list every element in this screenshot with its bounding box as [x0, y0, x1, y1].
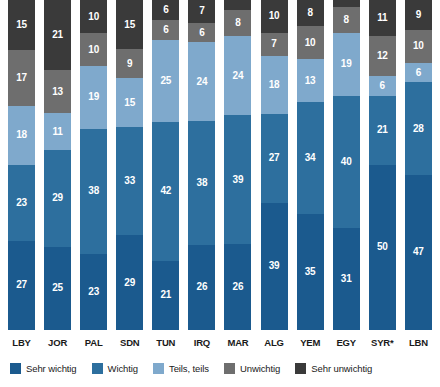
- bar-segment-value: 39: [269, 261, 280, 271]
- bar-segment: 40: [333, 96, 360, 228]
- bar-segment-value: 6: [163, 5, 168, 15]
- bar-segment: 18: [8, 106, 35, 165]
- bar-segment: 7: [261, 33, 288, 56]
- bar-segment-value: 6: [416, 68, 421, 78]
- bar-stack-yem: 810133435: [297, 0, 324, 330]
- bar-segment: 6: [188, 23, 215, 43]
- bar-segment: 12: [369, 36, 396, 76]
- bar-segment-value: 15: [124, 98, 135, 108]
- bar-segment: 19: [80, 66, 107, 129]
- x-axis-tick-labels: LBYJORPALSDNTUNIRQMARALGYEMEGYSYR*LBN: [8, 332, 432, 352]
- bar-segment: 28: [405, 82, 432, 174]
- bar-stack-lby: 1517182327: [8, 0, 35, 330]
- bar-segment: 34: [297, 102, 324, 214]
- x-tick-irq: IRQ: [188, 337, 215, 348]
- x-tick-mar: MAR: [224, 337, 251, 348]
- bar-segment-value: 7: [199, 6, 204, 16]
- x-tick-yem: YEM: [297, 337, 324, 348]
- bar-segment: 2: [333, 0, 360, 7]
- bar-stack-mar: 38243926: [224, 0, 251, 330]
- bar-segment: 9: [405, 0, 432, 30]
- bar-stack-irq: 76243826: [188, 0, 215, 330]
- bar-segment-value: 11: [52, 127, 62, 137]
- x-tick-sdn: SDN: [116, 337, 143, 348]
- x-tick-jor: JOR: [44, 337, 71, 348]
- bar-segment-value: 13: [305, 76, 316, 86]
- bar-segment: 23: [80, 254, 107, 330]
- bar-stack-egy: 28194031: [333, 0, 360, 330]
- legend-label: Unwichtig: [240, 363, 280, 374]
- bar-segment: 25: [152, 40, 179, 123]
- bar-segment-value: 29: [52, 193, 63, 203]
- bar-segment-value: 21: [377, 125, 388, 135]
- legend-label: Wichtig: [108, 363, 138, 374]
- bar-column: 28194031: [333, 0, 360, 330]
- bar-segment-value: 38: [88, 186, 99, 196]
- bar-segment: 24: [188, 42, 215, 120]
- bar-segment-value: 10: [88, 45, 99, 55]
- legend-label: Sehr wichtig: [26, 363, 77, 374]
- bar-segment: 24: [224, 36, 251, 115]
- legend-swatch: [153, 363, 164, 374]
- bar-segment: 8: [224, 10, 251, 36]
- bar-segment-value: 18: [16, 130, 27, 140]
- legend-swatch: [224, 363, 235, 374]
- bar-segment: 25: [44, 247, 71, 330]
- bar-segment-value: 26: [233, 282, 244, 292]
- legend-item: Teils, teils: [153, 363, 209, 374]
- x-tick-syr: SYR*: [369, 337, 396, 348]
- bar-segment-value: 9: [416, 10, 421, 20]
- bar-segment-value: 40: [341, 157, 352, 167]
- bar-column: 2113112925: [44, 0, 71, 330]
- bar-segment: 47: [405, 175, 432, 330]
- bar-segment: 50: [369, 165, 396, 330]
- bar-segment-value: 26: [197, 282, 208, 292]
- bar-stack-alg: 107182739: [261, 0, 288, 330]
- bar-segment: 15: [116, 0, 143, 49]
- bar-segment-value: 47: [413, 247, 424, 257]
- bar-segment-value: 8: [307, 8, 312, 18]
- bar-segment: 7: [188, 0, 215, 23]
- bar-segment: 26: [188, 245, 215, 330]
- bar-segment-value: 24: [197, 77, 208, 87]
- legend-item: Sehr wichtig: [10, 363, 77, 374]
- bar-segment-value: 39: [233, 175, 244, 185]
- legend-item: Sehr unwichtig: [295, 363, 372, 374]
- bar-segment: 19: [333, 33, 360, 96]
- bar-segment-value: 19: [88, 92, 99, 102]
- bar-segment-value: 31: [341, 274, 352, 284]
- bar-segment: 8: [333, 7, 360, 33]
- x-tick-tun: TUN: [152, 337, 179, 348]
- bar-column: 91062847: [405, 0, 432, 330]
- bar-segment: 27: [8, 241, 35, 330]
- bar-segment: 21: [152, 261, 179, 330]
- bar-segment: 13: [44, 70, 71, 113]
- bar-segment: 11: [369, 0, 396, 36]
- bar-segment: 39: [224, 115, 251, 244]
- bar-stack-sdn: 159153329: [116, 0, 143, 330]
- legend-swatch: [10, 363, 21, 374]
- bar-segment-value: 29: [124, 278, 135, 288]
- bar-segment-value: 24: [233, 71, 244, 81]
- plot-area: 1517182327211311292510101938231591533296…: [8, 0, 432, 330]
- bar-column: 810133435: [297, 0, 324, 330]
- bar-segment: 6: [369, 76, 396, 96]
- bar-segment-value: 12: [377, 51, 388, 61]
- bar-segment-value: 6: [199, 28, 204, 38]
- bar-segment: 13: [297, 59, 324, 102]
- bar-column: 38243926: [224, 0, 251, 330]
- bar-segment-value: 17: [16, 73, 27, 83]
- bar-column: 111262150: [369, 0, 396, 330]
- bar-segment: 33: [116, 127, 143, 235]
- bar-segment-value: 21: [52, 30, 63, 40]
- bar-segment-value: 11: [377, 13, 387, 23]
- bar-column: 76243826: [188, 0, 215, 330]
- bar-segment: 29: [116, 235, 143, 330]
- bar-segment-value: 6: [163, 25, 168, 35]
- bar-segment-value: 25: [52, 283, 63, 293]
- bar-segment: 15: [8, 0, 35, 50]
- bar-column: 1517182327: [8, 0, 35, 330]
- bar-column: 1010193823: [80, 0, 107, 330]
- x-tick-pal: PAL: [80, 337, 107, 348]
- bar-column: 66254221: [152, 0, 179, 330]
